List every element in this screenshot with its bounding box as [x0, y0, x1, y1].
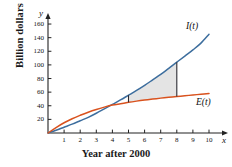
x-tick-label: 6	[138, 136, 152, 144]
y-tick-label: 100	[24, 61, 44, 69]
x-tick-label: 1	[57, 136, 71, 144]
chart-figure: Billion dollars Year after 2000 y x I(t)…	[0, 0, 232, 167]
series-label-i: I(t)	[186, 21, 198, 31]
y-tick-label: 140	[24, 34, 44, 42]
series-label-e: E(t)	[196, 97, 211, 107]
x-tick-label: 3	[89, 136, 103, 144]
x-tick-label: 10	[202, 136, 216, 144]
chart-series-layer	[48, 34, 209, 133]
y-axis-title: Billion dollars	[14, 0, 25, 96]
x-tick-label: 8	[170, 136, 184, 144]
y-tick-label: 160	[24, 20, 44, 28]
y-tick-label: 20	[24, 115, 44, 123]
x-tick-label: 7	[154, 136, 168, 144]
y-tick-label: 40	[24, 102, 44, 110]
x-tick-label: 9	[186, 136, 200, 144]
y-tick-label: 80	[24, 75, 44, 83]
y-tick-label: 120	[24, 47, 44, 55]
x-tick-label: 4	[105, 136, 119, 144]
x-tick-label: 2	[73, 136, 87, 144]
x-tick-label: 5	[122, 136, 136, 144]
x-axis-title: Year after 2000	[0, 148, 232, 159]
y-axis-variable-label: y	[39, 8, 43, 18]
chart-axes	[45, 13, 228, 136]
y-tick-label: 60	[24, 88, 44, 96]
x-axis-variable-label: x	[222, 135, 226, 145]
